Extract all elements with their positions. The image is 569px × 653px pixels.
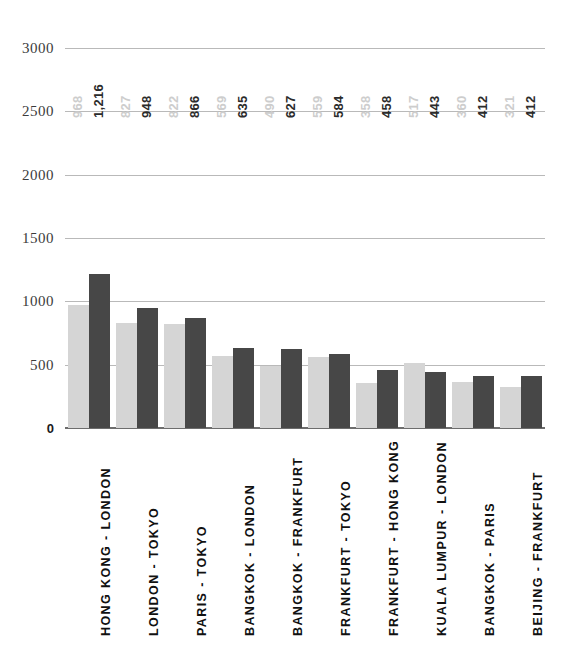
- y-tick-label-2000: 2000: [0, 167, 54, 182]
- value-label-group: 822866: [164, 48, 206, 118]
- category-label: BANGKOK - FRANKFURT: [288, 436, 308, 636]
- value-label-group: 559584: [308, 48, 350, 118]
- value-label-series-1: 822: [167, 52, 181, 118]
- bar-series-2: [521, 376, 542, 428]
- category-label: PARIS - TOKYO: [192, 436, 212, 636]
- value-label-series-1: 358: [359, 52, 373, 118]
- category-label-layer: HONG KONG - LONDONLONDON - TOKYOPARIS - …: [65, 436, 545, 646]
- y-tick-label-1000: 1000: [0, 294, 54, 309]
- category-label: KUALA LUMPUR - LONDON: [432, 436, 452, 636]
- category-label: BANGKOK - LONDON: [240, 436, 260, 636]
- value-label-series-1: 569: [215, 52, 229, 118]
- value-label-series-2: 627: [284, 52, 298, 118]
- bar-series-2: [473, 376, 494, 428]
- value-label-group: 490627: [260, 48, 302, 118]
- value-label-group: 9681,216: [68, 48, 110, 118]
- y-tick-label-0: 0: [0, 422, 54, 435]
- bar-series-1: [356, 383, 377, 428]
- bar-series-1: [212, 356, 233, 428]
- value-label-series-2: 443: [428, 52, 442, 118]
- category-label: FRANKFURT - HONG KONG: [384, 436, 404, 636]
- value-label-series-1: 360: [455, 52, 469, 118]
- bar-series-1: [500, 387, 521, 428]
- value-label-series-2: 412: [524, 52, 538, 118]
- category-label: BANGKOK - PARIS: [480, 436, 500, 636]
- y-tick-label-500: 500: [0, 357, 54, 372]
- y-tick-label-3000: 3000: [0, 41, 54, 56]
- value-label-series-1: 968: [71, 52, 85, 118]
- value-label-group: 321412: [500, 48, 542, 118]
- bar-series-2: [137, 308, 158, 428]
- bar-series-1: [308, 357, 329, 428]
- bar-series-2: [425, 372, 446, 428]
- bar-series-2: [185, 318, 206, 428]
- bar-series-2: [89, 274, 110, 428]
- bar-series-1: [260, 366, 281, 428]
- category-label: HONG KONG - LONDON: [96, 436, 116, 636]
- bar-series-2: [233, 348, 254, 428]
- bar-series-1: [404, 363, 425, 428]
- bar-series-1: [116, 323, 137, 428]
- value-label-layer: 9681,21682794882286656963549062755958435…: [65, 48, 545, 118]
- value-label-series-2: 458: [380, 52, 394, 118]
- value-label-group: 569635: [212, 48, 254, 118]
- value-label-series-1: 490: [263, 52, 277, 118]
- category-label: LONDON - TOKYO: [144, 436, 164, 636]
- category-label: FRANKFURT - TOKYO: [336, 436, 356, 636]
- bar-chart: 050010001500200025003000 9681,2168279488…: [0, 0, 569, 653]
- value-label-series-1: 517: [407, 52, 421, 118]
- y-axis: 050010001500200025003000: [0, 0, 62, 653]
- value-label-series-1: 827: [119, 52, 133, 118]
- value-label-series-1: 559: [311, 52, 325, 118]
- value-label-group: 358458: [356, 48, 398, 118]
- category-label: BEIJING - FRANKFURT: [528, 436, 548, 636]
- value-label-series-1: 321: [503, 52, 517, 118]
- value-label-series-2: 635: [236, 52, 250, 118]
- value-label-group: 360412: [452, 48, 494, 118]
- value-label-series-2: 866: [188, 52, 202, 118]
- value-label-series-2: 584: [332, 52, 346, 118]
- value-label-series-2: 412: [476, 52, 490, 118]
- bar-series-1: [452, 382, 473, 428]
- y-tick-label-2500: 2500: [0, 104, 54, 119]
- value-label-group: 827948: [116, 48, 158, 118]
- bar-series-2: [377, 370, 398, 428]
- value-label-group: 517443: [404, 48, 446, 118]
- value-label-series-2: 948: [140, 52, 154, 118]
- bar-series-1: [68, 305, 89, 428]
- bar-series-2: [281, 349, 302, 428]
- y-tick-label-1500: 1500: [0, 231, 54, 246]
- bar-series-2: [329, 354, 350, 428]
- value-label-series-2: 1,216: [92, 52, 106, 118]
- bar-series-1: [164, 324, 185, 428]
